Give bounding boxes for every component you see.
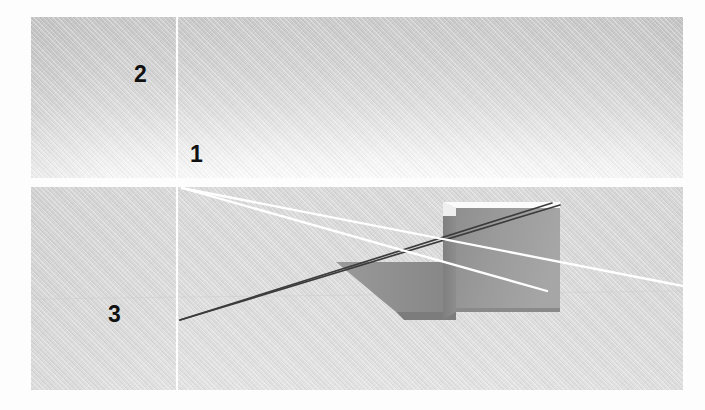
upper-scene-panel: [31, 17, 683, 178]
figure-root: 2 1 3: [0, 0, 705, 410]
lower-panel-overlay: [31, 187, 683, 390]
figure-label-1: 1: [190, 143, 203, 166]
cuboid-bottom-edge-shade: [456, 308, 560, 312]
figure-label-2: 2: [134, 63, 147, 86]
cast-shadow: [336, 262, 456, 312]
figure-label-3: 3: [108, 303, 121, 326]
lower-scene-panel: [31, 187, 683, 390]
ground-horizon-line: [31, 291, 683, 299]
cuboid-top-highlight-edge: [443, 202, 560, 208]
upper-panel-overlay: [31, 17, 683, 178]
